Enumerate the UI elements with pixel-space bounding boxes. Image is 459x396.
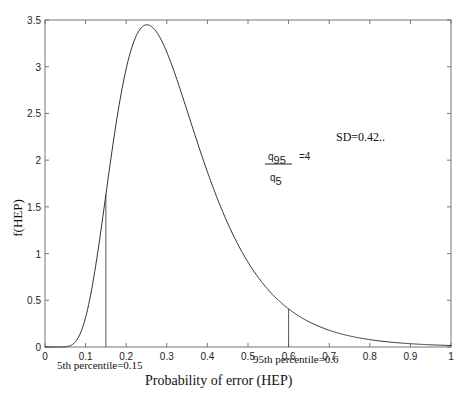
sd-annotation: SD=0.42.. — [336, 130, 385, 144]
y-tick-label: 0.5 — [27, 295, 41, 306]
ratio-annotation: q95 q5 =4 — [265, 151, 311, 187]
y-tick-label: 1.5 — [27, 202, 41, 213]
y-tick-label: 3.5 — [27, 15, 41, 26]
y-tick-label: 2 — [35, 155, 41, 166]
x-tick-label: 0 — [42, 351, 48, 362]
x-tick-label: 0.9 — [403, 351, 417, 362]
y-axis-ticks: 00.511.522.533.5 — [27, 15, 451, 353]
y-tick-label: 2.5 — [27, 108, 41, 119]
x-tick-label: 0.3 — [160, 351, 174, 362]
y-tick-label: 0 — [35, 342, 41, 353]
x-axis-ticks: 00.10.20.30.40.50.60.70.80.91 — [42, 20, 454, 362]
x-axis-label: Probability of error (HEP) — [145, 373, 293, 389]
ratio-denominator: q5 — [270, 172, 282, 187]
x-tick-label: 0.4 — [200, 351, 214, 362]
marker-label-5th: 5th percentile=0.15 — [57, 359, 143, 371]
x-tick-label: 1 — [448, 351, 454, 362]
percentile-markers — [106, 195, 289, 347]
y-tick-label: 3 — [35, 62, 41, 73]
x-tick-label: 0.8 — [363, 351, 377, 362]
chart: 00.10.20.30.40.50.60.70.80.91 00.511.522… — [0, 0, 459, 396]
marker-label-95th: 95th percentile=0.6 — [253, 353, 339, 365]
ratio-equals: =4 — [299, 151, 311, 162]
y-tick-label: 1 — [35, 249, 41, 260]
y-axis-label: f(HEP) — [10, 199, 25, 237]
